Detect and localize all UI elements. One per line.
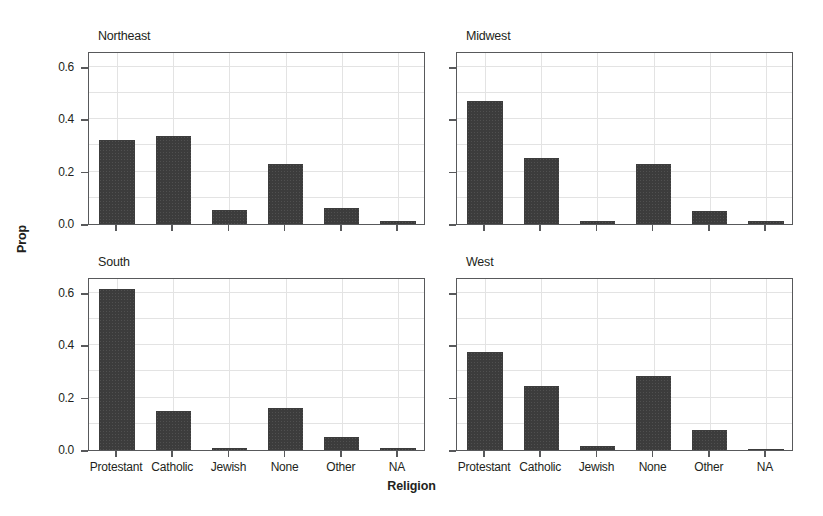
x-tick-mark — [652, 225, 654, 231]
y-tick-mark — [81, 172, 88, 174]
x-tick-label: Jewish — [579, 460, 614, 474]
panel-midwest: Midwest — [456, 52, 793, 225]
bar — [212, 448, 247, 450]
y-tick-label: 0.2 — [40, 165, 74, 179]
bar — [636, 376, 671, 450]
bar — [212, 210, 247, 224]
y-tick-mark — [81, 224, 88, 226]
gridline-horizontal — [89, 344, 424, 345]
x-tick-label: Catholic — [151, 460, 193, 474]
panel-title: West — [466, 255, 493, 269]
x-tick-mark — [652, 451, 654, 457]
gridline-horizontal-minor — [89, 370, 424, 371]
bar — [156, 411, 191, 450]
y-tick-label: 0.6 — [40, 60, 74, 74]
gridline-vertical — [398, 53, 399, 224]
bar — [580, 221, 615, 224]
x-tick-mark — [284, 225, 286, 231]
x-tick-mark — [171, 225, 173, 231]
gridline-horizontal-minor — [89, 318, 424, 319]
gridline-horizontal — [457, 171, 792, 172]
y-tick-mark — [81, 398, 88, 400]
gridline-horizontal-minor — [457, 318, 792, 319]
gridline-horizontal — [457, 397, 792, 398]
y-tick-label: 0.0 — [40, 443, 74, 457]
bar — [748, 221, 783, 224]
y-tick-mark — [449, 172, 456, 174]
panel-south: South0.00.20.40.6ProtestantCatholicJewis… — [88, 278, 425, 451]
x-tick-label: Jewish — [211, 460, 246, 474]
gridline-vertical — [710, 53, 711, 224]
bar — [524, 158, 559, 224]
x-tick-mark — [483, 451, 485, 457]
gridline-horizontal-minor — [457, 144, 792, 145]
x-tick-mark — [764, 451, 766, 457]
gridline-horizontal — [457, 292, 792, 293]
plot-area — [456, 52, 793, 225]
gridline-horizontal-minor — [457, 423, 792, 424]
x-tick-label: Protestant — [90, 460, 143, 474]
gridline-horizontal — [457, 66, 792, 67]
x-tick-label: NA — [389, 460, 405, 474]
y-tick-mark — [81, 119, 88, 121]
x-tick-mark — [340, 225, 342, 231]
gridline-vertical — [597, 53, 598, 224]
y-tick-label: 0.4 — [40, 338, 74, 352]
gridline-horizontal-minor — [457, 92, 792, 93]
bar — [692, 430, 727, 450]
gridline-horizontal-minor — [457, 370, 792, 371]
y-tick-label: 0.6 — [40, 286, 74, 300]
x-tick-mark — [596, 451, 598, 457]
bar — [156, 136, 191, 224]
x-tick-label: Other — [694, 460, 723, 474]
gridline-horizontal — [89, 292, 424, 293]
y-tick-mark — [449, 67, 456, 69]
y-tick-mark — [81, 293, 88, 295]
bar — [324, 437, 359, 450]
gridline-horizontal-minor — [89, 423, 424, 424]
bar — [324, 208, 359, 224]
panel-west: WestProtestantCatholicJewishNoneOtherNA — [456, 278, 793, 451]
facet-bar-chart: Prop Religion Northeast0.00.20.40.6Midwe… — [0, 0, 823, 516]
gridline-horizontal — [89, 118, 424, 119]
y-tick-mark — [81, 67, 88, 69]
y-tick-mark — [81, 450, 88, 452]
bar — [268, 164, 303, 224]
gridline-vertical — [229, 53, 230, 224]
bar — [580, 446, 615, 450]
x-tick-mark — [340, 451, 342, 457]
x-tick-label: None — [639, 460, 667, 474]
x-tick-mark — [171, 451, 173, 457]
x-tick-mark — [483, 225, 485, 231]
gridline-horizontal — [89, 397, 424, 398]
plot-area — [88, 52, 425, 225]
bar — [748, 449, 783, 451]
x-tick-label: NA — [757, 460, 773, 474]
gridline-horizontal-minor — [89, 144, 424, 145]
panel-title: South — [98, 255, 130, 269]
x-tick-mark — [596, 225, 598, 231]
gridline-horizontal — [89, 66, 424, 67]
gridline-horizontal — [457, 344, 792, 345]
gridline-horizontal-minor — [89, 197, 424, 198]
x-tick-mark — [708, 451, 710, 457]
plot-area — [456, 278, 793, 451]
gridline-horizontal-minor — [89, 92, 424, 93]
x-tick-label: Protestant — [458, 460, 511, 474]
bar — [467, 101, 502, 224]
gridline-vertical — [766, 53, 767, 224]
x-tick-mark — [228, 451, 230, 457]
bar — [380, 448, 415, 450]
gridline-vertical — [229, 279, 230, 450]
y-tick-mark — [449, 293, 456, 295]
panel-northeast: Northeast0.00.20.40.6 — [88, 52, 425, 225]
gridline-vertical — [710, 279, 711, 450]
panel-title: Northeast — [98, 29, 150, 43]
y-axis-title: Prop — [15, 209, 29, 269]
x-tick-mark — [764, 225, 766, 231]
y-tick-mark — [449, 345, 456, 347]
x-tick-label: Catholic — [519, 460, 561, 474]
gridline-vertical — [342, 279, 343, 450]
bar — [99, 140, 134, 224]
plot-area — [88, 278, 425, 451]
